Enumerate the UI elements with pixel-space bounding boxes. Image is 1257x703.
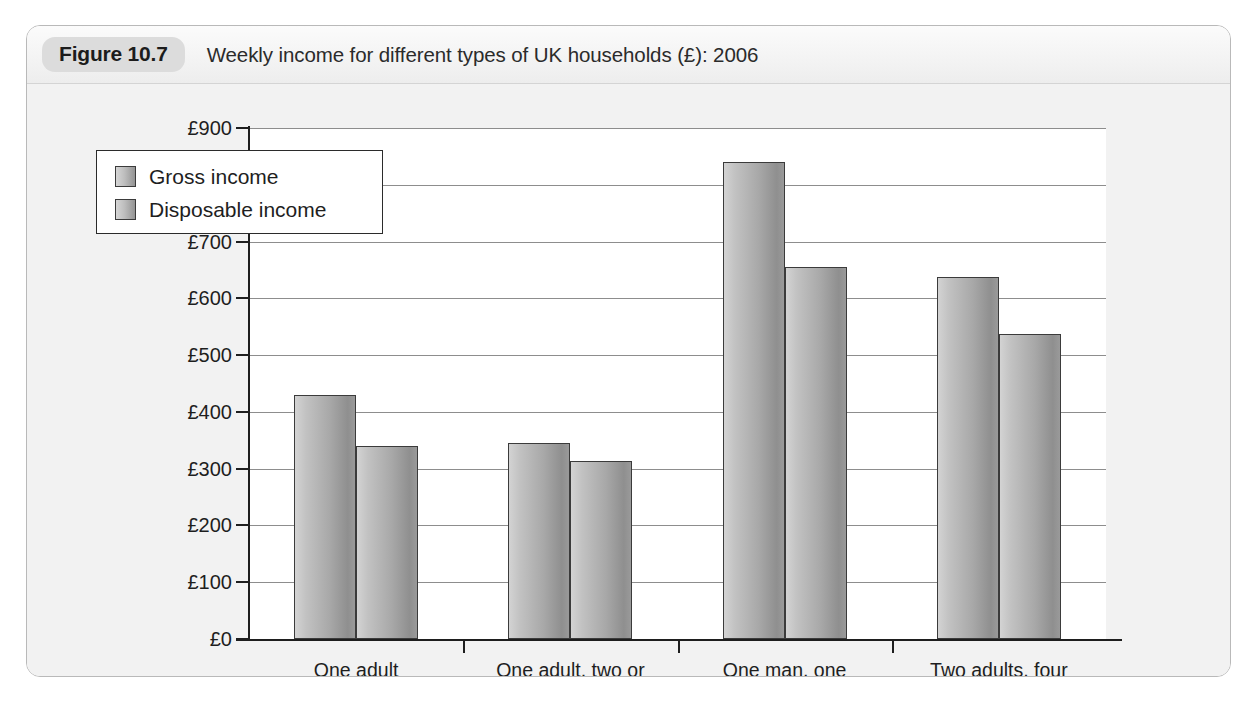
bar-disposable-income [785,267,847,639]
y-axis-tick-label: £200 [146,514,232,537]
gridline [249,242,1106,243]
legend-label-gross-income: Gross income [149,165,279,189]
y-axis-tick [236,411,249,413]
category-label-line: Two adults, four [879,658,1119,676]
y-axis-tick-label: £300 [146,457,232,480]
bar-disposable-income [999,334,1061,639]
y-axis-tick [236,468,249,470]
y-axis-tick-label: £500 [146,344,232,367]
category-label-line: One adult, two or [450,658,690,676]
y-axis-tick-label: £900 [146,117,232,140]
legend-swatch-gross-income [115,166,136,187]
bar-gross-income [723,162,785,639]
chart-panel: £0£100£200£300£400£500£600£700£800£900 O… [27,84,1230,676]
y-axis-tick-label: £0 [146,628,232,651]
y-axis-tick-label: £400 [146,400,232,423]
category-label: Two adults, fouror more children [879,658,1119,676]
category-label-line: One man, one [665,658,905,676]
x-axis-tick [463,640,465,653]
y-axis-tick [236,638,249,640]
legend-label-disposable-income: Disposable income [149,198,326,222]
y-axis-tick [236,241,249,243]
bar-gross-income [508,443,570,639]
legend-item: Disposable income [115,193,382,226]
chart-legend: Gross income Disposable income [96,150,383,234]
figure-caption-bar: Figure 10.7 Weekly income for different … [27,26,1230,84]
x-axis-tick [678,640,680,653]
bar-disposable-income [356,446,418,639]
y-axis-tick [236,297,249,299]
y-axis-tick [236,524,249,526]
y-axis-tick [236,354,249,356]
figure-caption-text: Weekly income for different types of UK … [207,43,759,67]
category-label-line: One adult [236,658,476,676]
x-axis-tick [892,640,894,653]
y-axis-tick-label: £600 [146,287,232,310]
bar-gross-income [294,395,356,639]
gridline [249,128,1106,129]
legend-swatch-disposable-income [115,199,136,220]
y-axis-tick [236,581,249,583]
y-axis-tick-label: £100 [146,571,232,594]
bar-disposable-income [570,461,632,639]
category-label: One man, onewoman (not retired) [665,658,905,676]
y-axis-tick [236,127,249,129]
figure-card: Figure 10.7 Weekly income for different … [26,25,1231,677]
bar-gross-income [937,277,999,639]
category-label: One adult(not retired) [236,658,476,676]
legend-item: Gross income [115,160,382,193]
category-label: One adult, two ormore children [450,658,690,676]
figure-number-badge: Figure 10.7 [42,37,185,72]
